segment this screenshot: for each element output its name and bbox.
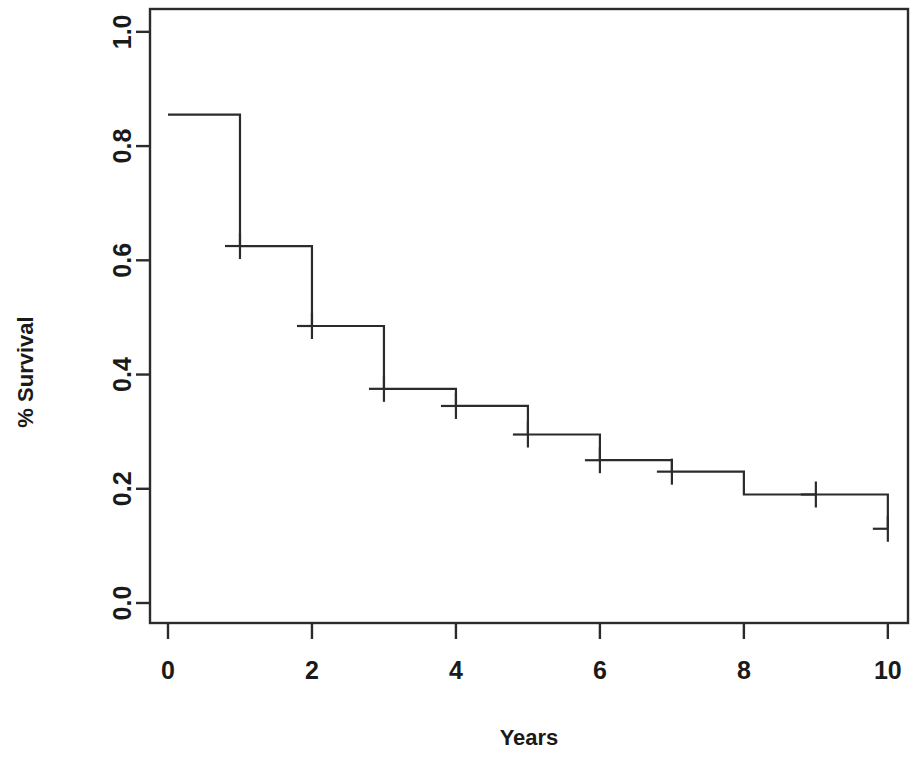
x-tick-label-2: 2 — [305, 656, 319, 684]
y-tick-label-0.4: 0.4 — [108, 357, 136, 392]
y-tick-label-1.0: 1.0 — [108, 14, 136, 49]
y-axis-title: % Survival — [13, 316, 38, 427]
kaplan-meier-chart: 0.00.20.40.60.81.0 0246810 % Survival Ye… — [0, 0, 921, 767]
x-tick-label-4: 4 — [449, 656, 463, 684]
x-tick-label-8: 8 — [737, 656, 751, 684]
y-tick-label-0.6: 0.6 — [108, 243, 136, 278]
x-tick-label-10: 10 — [874, 656, 902, 684]
y-tick-label-0.2: 0.2 — [108, 471, 136, 506]
x-tick-label-0: 0 — [161, 656, 175, 684]
survival-plot-figure: 0.00.20.40.60.81.0 0246810 % Survival Ye… — [0, 0, 921, 767]
figure-background — [0, 0, 921, 767]
y-tick-label-0.0: 0.0 — [108, 586, 136, 621]
x-axis-title: Years — [500, 725, 559, 750]
y-tick-label-0.8: 0.8 — [108, 129, 136, 164]
x-tick-label-6: 6 — [593, 656, 607, 684]
